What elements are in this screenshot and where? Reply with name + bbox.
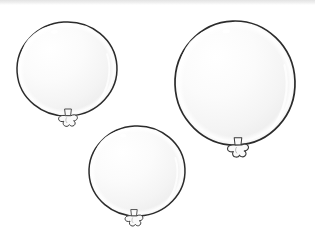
balloon-illustration: Three balloons line drawing <box>0 0 315 249</box>
scan-edge-band <box>0 0 315 5</box>
balloon-scene-canvas <box>0 0 315 249</box>
